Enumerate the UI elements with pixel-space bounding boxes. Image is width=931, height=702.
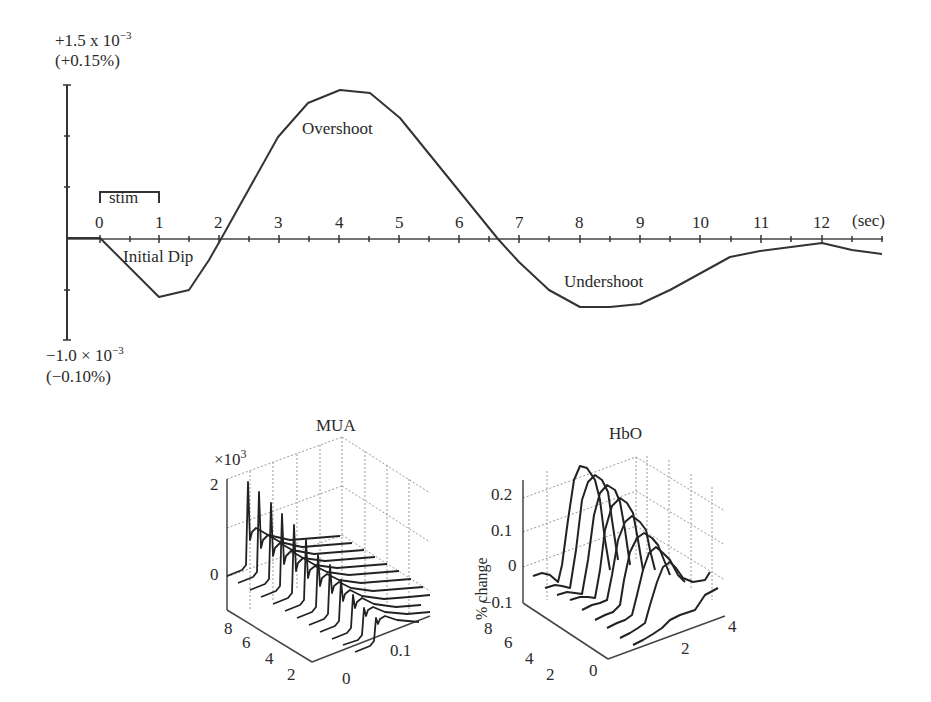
- hbo-3d-chart: [450, 410, 750, 700]
- mua-title: MUA: [316, 417, 356, 434]
- mua-y-tick-8: 8: [224, 620, 233, 637]
- mua-z-tick-2: 2: [210, 476, 219, 493]
- hrf-chart: [0, 0, 931, 400]
- hbo-x-tick-0: 0: [589, 662, 598, 679]
- hbo-y-tick-8: 8: [484, 620, 493, 637]
- hbo-z-tick-0: 0: [508, 557, 517, 574]
- mua-x-tick-0-1: 0.1: [390, 642, 411, 659]
- initial-dip-label: Initial Dip: [123, 248, 193, 265]
- hbo-z-tick-0-1: 0.1: [491, 522, 512, 539]
- y-top-label: +1.5 x 10−3: [55, 30, 132, 49]
- hbo-x-tick-4: 4: [728, 618, 737, 635]
- hrf-curve: [67, 90, 882, 307]
- hbo-x-tick-2: 2: [681, 640, 690, 657]
- hbo-y-tick-4: 4: [525, 650, 534, 667]
- mua-x-tick-0: 0: [342, 670, 351, 687]
- hbo-y-tick-6: 6: [504, 634, 513, 651]
- mua-y-tick-2: 2: [287, 666, 296, 683]
- x-unit-label: (sec): [852, 212, 885, 229]
- y-bottom-percent-label: (−0.10%): [46, 368, 111, 385]
- y-bottom-label: −1.0 × 10−3: [46, 345, 124, 364]
- overshoot-label: Overshoot: [302, 120, 373, 137]
- mua-z-tick-0: 0: [210, 566, 219, 583]
- mua-y-tick-6: 6: [242, 634, 251, 651]
- mua-multiplier: ×103: [214, 448, 247, 468]
- y-top-percent-label: (+0.15%): [55, 52, 120, 69]
- undershoot-label: Undershoot: [564, 273, 643, 290]
- hbo-title: HbO: [609, 425, 642, 442]
- stim-label: stim: [109, 189, 138, 206]
- hbo-y-tick-2: 2: [546, 666, 555, 683]
- mua-y-tick-4: 4: [265, 650, 274, 667]
- hbo-z-tick-0-2: 0.2: [491, 486, 512, 503]
- hbo-z-tick-neg-0-1: −0.1: [482, 594, 513, 611]
